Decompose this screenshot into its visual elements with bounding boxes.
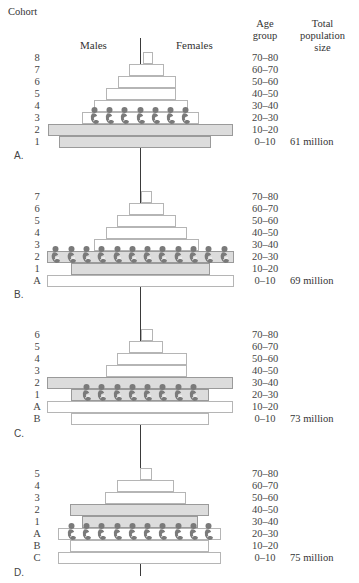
age-group-label: 70–80	[240, 52, 290, 64]
cohort-header: Cohort	[8, 6, 48, 18]
cohort-label: 5	[27, 341, 47, 353]
baby-icon	[188, 246, 199, 264]
cohort-label: 2	[27, 504, 47, 516]
age-group-label: 30–40	[240, 516, 290, 528]
age-group-label: 60–70	[240, 341, 290, 353]
baby-boom-cohort-bar	[71, 263, 210, 275]
total-population: 73 million	[290, 413, 333, 425]
cohort-bar	[118, 76, 176, 88]
baby-icon	[135, 107, 146, 125]
cohort-bar	[143, 52, 153, 64]
age-group-label: 60–70	[240, 480, 290, 492]
baby-icon	[66, 523, 77, 541]
males-label: Males	[80, 39, 107, 51]
baby-icon	[165, 107, 176, 125]
total-header-line3: size	[290, 42, 355, 54]
baby-icon	[66, 246, 77, 264]
age-group-label: 10–20	[240, 540, 290, 552]
age-group-label: 10–20	[240, 263, 290, 275]
baby-boom-cohort-bar	[70, 504, 209, 516]
cohort-bar	[47, 401, 233, 413]
cohort-label: 1	[27, 136, 47, 148]
cohort-label: B	[27, 540, 47, 552]
age-group-label: 60–70	[240, 203, 290, 215]
age-group-label: 30–40	[240, 239, 290, 251]
baby-icon	[173, 523, 184, 541]
cohort-label: 3	[27, 112, 47, 124]
baby-icon	[173, 246, 184, 264]
baby-icon	[157, 523, 168, 541]
baby-icon	[219, 246, 230, 264]
age-group-label: 60–70	[240, 64, 290, 76]
age-group-label: 30–40	[240, 377, 290, 389]
cohort-label: A	[27, 528, 47, 540]
panel-letter: A.	[14, 150, 23, 161]
cohort-label: 4	[27, 480, 47, 492]
cohort-label: 5	[27, 468, 47, 480]
cohort-label: 1	[27, 516, 47, 528]
cohort-label: 6	[27, 329, 47, 341]
baby-icon	[188, 384, 199, 402]
baby-icon	[127, 246, 138, 264]
cohort-label: 7	[27, 64, 47, 76]
baby-boom-cohort-bar	[48, 124, 233, 136]
baby-icon	[142, 523, 153, 541]
age-group-label: 40–50	[240, 88, 290, 100]
age-group-label: 70–80	[240, 191, 290, 203]
total-header-line1: Total	[290, 18, 355, 30]
baby-icon	[112, 523, 123, 541]
age-group-label: 50–60	[240, 76, 290, 88]
cohort-bar	[106, 365, 187, 377]
baby-icon	[112, 246, 123, 264]
panel-letter: B.	[14, 289, 23, 300]
cohort-bar	[117, 480, 174, 492]
age-group-label: 70–80	[240, 468, 290, 480]
cohort-label: 4	[27, 353, 47, 365]
age-group-label: 20–30	[240, 528, 290, 540]
cohort-label: 4	[27, 100, 47, 112]
baby-icon	[81, 246, 92, 264]
total-population-header: Total population size	[290, 18, 355, 54]
baby-icon	[142, 246, 153, 264]
baby-icon	[180, 107, 191, 125]
age-group-label: 20–30	[240, 112, 290, 124]
age-group-label: 0–10	[240, 413, 290, 425]
cohort-label: 3	[27, 239, 47, 251]
total-population: 69 million	[290, 275, 333, 287]
cohort-bar	[141, 329, 153, 341]
cohort-bar	[71, 413, 209, 425]
baby-icon	[112, 384, 123, 402]
cohort-bar	[106, 227, 187, 239]
age-group-label: 0–10	[240, 275, 290, 287]
age-group-label: 10–20	[240, 124, 290, 136]
cohort-bar	[129, 64, 164, 76]
age-group-label: 30–40	[240, 100, 290, 112]
cohort-bar	[141, 191, 152, 203]
baby-icon	[188, 523, 199, 541]
cohort-label: 5	[27, 215, 47, 227]
baby-icon	[50, 246, 61, 264]
age-group-header-line1: Age	[245, 18, 285, 30]
cohort-label: 4	[27, 227, 47, 239]
cohort-label: 1	[27, 389, 47, 401]
age-group-label: 20–30	[240, 389, 290, 401]
cohort-label: 3	[27, 365, 47, 377]
baby-icon	[142, 384, 153, 402]
cohort-label: A	[27, 275, 47, 287]
age-group-label: 10–20	[240, 401, 290, 413]
cohort-label: 6	[27, 203, 47, 215]
baby-icon	[157, 384, 168, 402]
cohort-bar	[129, 203, 164, 215]
baby-icon	[173, 384, 184, 402]
cohort-label: 1	[27, 263, 47, 275]
age-group-label: 70–80	[240, 329, 290, 341]
baby-icon	[104, 107, 115, 125]
baby-icon	[81, 384, 92, 402]
total-population: 75 million	[290, 552, 333, 564]
cohort-bar	[47, 275, 234, 287]
baby-icon	[119, 107, 130, 125]
age-group-label: 0–10	[240, 136, 290, 148]
baby-icon	[96, 523, 107, 541]
cohort-label: 7	[27, 191, 47, 203]
baby-boom-cohort-bar	[47, 377, 233, 389]
